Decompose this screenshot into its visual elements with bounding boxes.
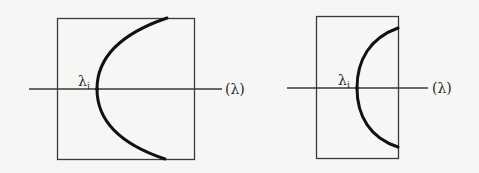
left-vertex-point — [95, 87, 99, 91]
left-panel: λi (λ) — [29, 18, 245, 160]
right-panel: λi (λ) — [287, 17, 452, 159]
left-axis-label: (λ) — [225, 81, 245, 97]
right-vertex-label: λi — [338, 72, 350, 90]
diagram-canvas: λi (λ) λi (λ) — [0, 0, 479, 173]
left-vertex-label: λi — [78, 73, 90, 91]
right-axis-label: (λ) — [432, 80, 452, 96]
right-vertex-point — [355, 86, 359, 90]
